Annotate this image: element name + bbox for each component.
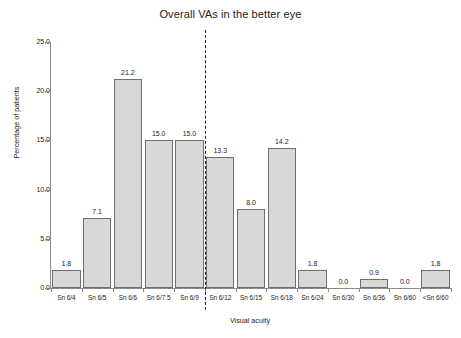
threshold-divider-line (205, 30, 206, 310)
y-tick-label: 20.0 (10, 87, 50, 94)
y-tick: 5.0 (0, 239, 50, 240)
x-tick-mark (451, 288, 452, 292)
y-tick: 20.0 (0, 91, 50, 92)
y-tick: 0.0 (0, 288, 50, 289)
x-tick-mark (113, 288, 114, 292)
bar-value-label: 0.0 (385, 278, 425, 285)
bar (237, 209, 265, 288)
bar-value-label: 21.2 (108, 69, 148, 76)
y-tick-label: 0.0 (10, 284, 50, 291)
y-tick: 10.0 (0, 190, 50, 191)
bar-value-label: 15.0 (169, 130, 209, 137)
y-tick-mark (45, 288, 50, 289)
y-tick-label: 25.0 (10, 38, 50, 45)
bar-value-label: 0.9 (354, 269, 394, 276)
bar (175, 140, 203, 288)
y-tick: 15.0 (0, 140, 50, 141)
bar (421, 270, 449, 288)
bar (145, 140, 173, 288)
x-tick-mark (51, 288, 52, 292)
x-tick-mark (420, 288, 421, 292)
x-category-label: <Sn 6/60 (414, 294, 458, 301)
x-tick-mark (174, 288, 175, 292)
y-tick-mark (45, 91, 50, 92)
x-tick-mark (297, 288, 298, 292)
bar-value-label: 1.8 (416, 260, 456, 267)
bar (114, 79, 142, 288)
chart-title: Overall VAs in the better eye (0, 8, 461, 20)
x-tick-mark (389, 288, 390, 292)
bar (206, 157, 234, 288)
plot-area (51, 42, 451, 288)
bar-value-label: 8.0 (231, 199, 271, 206)
bar-value-label: 14.2 (262, 138, 302, 145)
y-axis-label: Percentage of patients (12, 63, 21, 183)
y-tick-mark (45, 239, 50, 240)
bar (83, 218, 111, 288)
x-tick-mark (266, 288, 267, 292)
x-tick-mark (236, 288, 237, 292)
bar-value-label: 1.8 (293, 260, 333, 267)
x-tick-mark (359, 288, 360, 292)
bar-chart: Overall VAs in the better eye Percentage… (0, 0, 461, 338)
y-tick-label: 15.0 (10, 136, 50, 143)
x-tick-mark (143, 288, 144, 292)
bar-value-label: 13.3 (200, 147, 240, 154)
bar-value-label: 0.0 (323, 278, 363, 285)
y-tick-mark (45, 140, 50, 141)
y-tick-label: 5.0 (10, 235, 50, 242)
x-axis-label: Visual acuity (50, 316, 450, 325)
x-tick-mark (82, 288, 83, 292)
x-tick-mark (328, 288, 329, 292)
bar-value-label: 7.1 (77, 208, 117, 215)
y-tick-mark (45, 42, 50, 43)
bar (52, 270, 80, 288)
y-tick: 25.0 (0, 42, 50, 43)
bar-value-label: 1.8 (46, 260, 86, 267)
x-axis-line (50, 288, 451, 289)
y-tick-mark (45, 190, 50, 191)
y-tick-label: 10.0 (10, 186, 50, 193)
